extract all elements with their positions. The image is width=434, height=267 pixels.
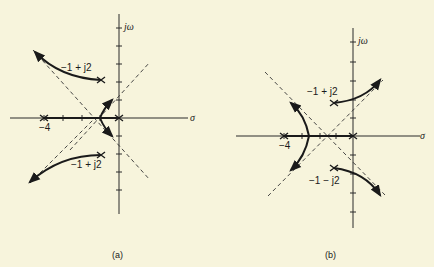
panel-a: jω σ −4 −1 + j2 −1 + j2 (a)	[10, 14, 196, 260]
pole-label-upper: −1 + j2	[61, 62, 92, 73]
breakaway-branch-lower	[291, 136, 309, 170]
pole-label-lower: −1 + j2	[71, 159, 102, 170]
asymptote	[70, 62, 150, 150]
pole-label-upper: −1 + j2	[307, 86, 338, 97]
complex-branch-upper	[334, 80, 380, 103]
jw-axis-label: jω	[356, 35, 368, 46]
neg4-tick-label: −4	[279, 140, 291, 151]
sigma-axis-label: σ	[190, 112, 196, 123]
pole-label-lower: −1 − j2	[309, 175, 340, 186]
breakaway-branch-lower	[100, 118, 112, 136]
breakaway-branch-upper	[100, 100, 112, 118]
caption-b: (b)	[325, 250, 336, 260]
neg4-tick-label: −4	[39, 122, 51, 133]
jw-axis-label: jω	[122, 21, 134, 32]
root-locus-figure: jω σ −4 −1 + j2 −1 + j2 (a)	[0, 0, 434, 267]
sigma-axis-label: σ	[420, 130, 426, 141]
complex-branch-lower	[334, 168, 380, 195]
caption-a: (a)	[112, 250, 123, 260]
panel-b: jω σ −4 −1 + j2 −1 − j2 (b)	[236, 28, 426, 260]
